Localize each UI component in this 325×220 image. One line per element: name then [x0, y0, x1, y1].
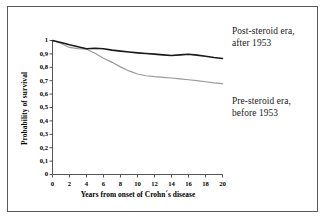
annotation-pre-steroid: Pre-steroid era, before 1953 — [232, 96, 291, 119]
annotation-pre-steroid-line2: before 1953 — [232, 108, 291, 120]
x-tick-label: 20 — [213, 180, 233, 187]
annotation-pre-steroid-line1: Pre-steroid era, — [232, 96, 291, 108]
annotation-post-steroid: Post-steroid era, after 1953 — [232, 26, 295, 49]
annotation-post-steroid-line2: after 1953 — [232, 38, 295, 50]
annotation-post-steroid-line1: Post-steroid era, — [232, 26, 295, 38]
survival-chart-figure: 00,10,20,30,40,50,60,70,80,91 0246810121… — [0, 0, 325, 220]
y-axis-title: Probability of survival — [20, 54, 29, 164]
x-axis-title: Years from onset of Crohn´s disease — [52, 190, 224, 199]
